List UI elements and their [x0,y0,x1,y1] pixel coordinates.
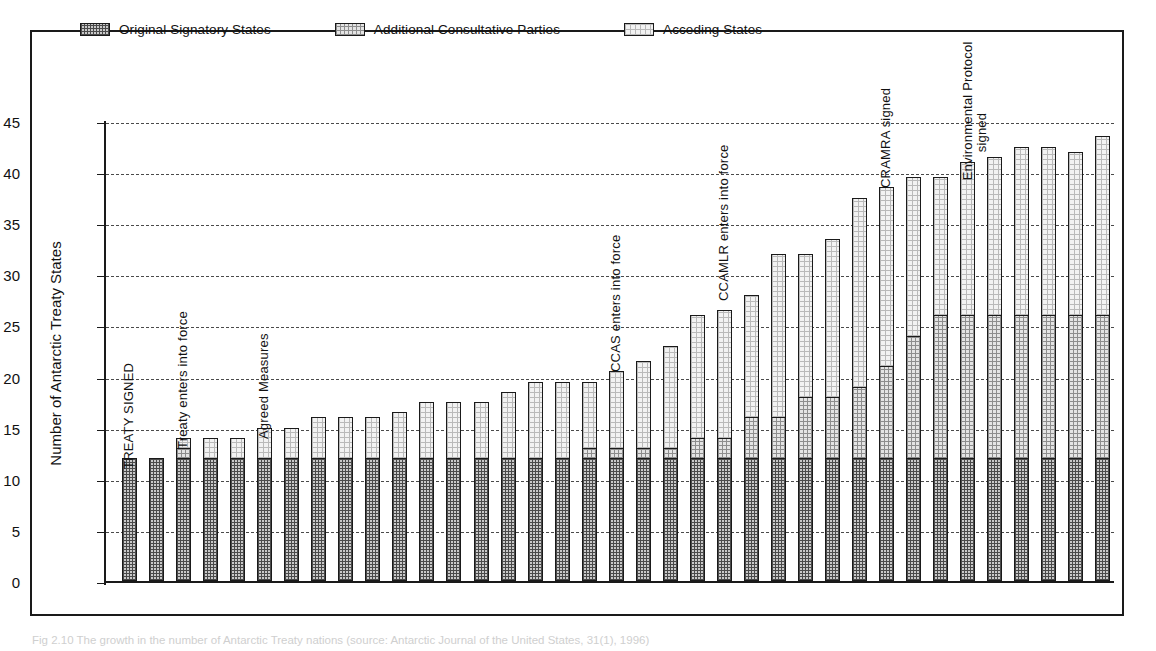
bar-stack[interactable] [879,187,894,581]
legend-item-consultative: Additional Consultative Parties [335,22,560,37]
bar-segment [744,458,759,581]
legend-label-consultative: Additional Consultative Parties [374,22,560,37]
bar-segment [933,315,948,458]
chart-annotation: Environmental Protocolsigned [961,41,988,180]
y-tick-label: 0 [0,574,20,591]
bar-stack[interactable] [474,402,489,581]
bar-stack[interactable] [960,162,975,581]
bar-stack[interactable] [825,239,840,581]
bar-stack[interactable] [338,417,353,581]
figure-caption: Fig 2.10 The growth in the number of Ant… [32,634,1132,646]
bar-segment [852,458,867,581]
bar-segment [744,295,759,418]
bar-segment [690,315,705,438]
bar-segment [338,458,353,581]
y-tick-label: 15 [0,421,20,438]
bar-stack[interactable] [690,315,705,581]
bar-stack[interactable] [446,402,461,581]
bar-stack[interactable] [284,428,299,581]
y-tick-label: 10 [0,472,20,489]
bar-stack[interactable] [392,412,407,581]
bar-segment [582,382,597,448]
bar-stack[interactable] [771,254,786,581]
bar-segment [825,458,840,581]
bar-segment [609,458,624,581]
bar-stack[interactable] [582,382,597,581]
bar-stack[interactable] [852,198,867,581]
bar-stack[interactable] [257,428,272,581]
legend-item-original: Original Signatory States [80,22,271,37]
bar-segment [122,458,137,581]
bar-segment [365,458,380,581]
bar-segment [338,417,353,458]
bar-segment [203,438,218,458]
bar-segment [446,458,461,581]
bar-segment [906,177,921,335]
bar-segment [419,402,434,458]
y-tick-label: 45 [0,114,20,131]
bar-stack[interactable] [717,310,732,581]
bar-segment [663,448,678,458]
bar-segment [555,382,570,459]
bar-segment [1095,136,1110,315]
bar-segment [528,458,543,581]
bar-segment [1014,458,1029,581]
bar-segment [392,412,407,458]
bar-stack[interactable] [122,458,137,581]
bar-segment [609,448,624,458]
chart-annotation: TREATY SIGNED [121,363,136,469]
bar-stack[interactable] [663,346,678,581]
bar-segment [852,387,867,459]
bar-segment [987,458,1002,581]
bar-segment [987,157,1002,315]
chart-annotation: Agreed Measures [256,333,271,439]
bar-segment [636,458,651,581]
bar-segment [906,458,921,581]
bar-segment [879,458,894,581]
bar-stack[interactable] [636,361,651,581]
bar-stack[interactable] [1041,147,1056,581]
bar-segment [879,366,894,458]
bar-stack[interactable] [203,438,218,581]
bar-segment [582,458,597,581]
bar-stack[interactable] [906,177,921,581]
bar-segment [582,448,597,458]
bar-stack[interactable] [1014,147,1029,581]
chart-legend: Original Signatory States Additional Con… [80,22,826,37]
bar-segment [311,458,326,581]
bar-stack[interactable] [744,295,759,581]
bar-stack[interactable] [528,382,543,581]
bar-segment [690,458,705,581]
bar-stack[interactable] [798,254,813,581]
bar-stack[interactable] [987,157,1002,581]
bar-stack[interactable] [365,417,380,581]
y-tick-mark [97,481,104,482]
chart-annotation: Treaty enters into force [175,311,190,449]
bar-stack[interactable] [609,371,624,581]
y-tick-label: 25 [0,318,20,335]
y-tick-mark [97,327,104,328]
chart-annotation: CCAMLR enters into force [716,144,731,301]
bar-segment [501,392,516,458]
bar-segment [636,448,651,458]
bar-stack[interactable] [230,438,245,581]
bar-segment [474,402,489,458]
y-tick-mark [97,174,104,175]
bar-segment [1041,315,1056,458]
y-tick-mark [97,123,104,124]
bar-segment [1068,458,1083,581]
bar-stack[interactable] [419,402,434,581]
bar-stack[interactable] [1068,152,1083,581]
bar-stack[interactable] [311,417,326,581]
x-axis-line [104,581,1114,583]
chart-annotation: CRAMRA signed [878,88,893,188]
bar-segment [176,458,191,581]
bar-stack[interactable] [555,382,570,581]
bar-stack[interactable] [149,458,164,581]
bar-stack[interactable] [1095,136,1110,581]
bar-segment [906,336,921,459]
bar-stack[interactable] [501,392,516,581]
bar-stack[interactable] [176,438,191,581]
bar-stack[interactable] [933,177,948,581]
bar-segment [960,162,975,315]
